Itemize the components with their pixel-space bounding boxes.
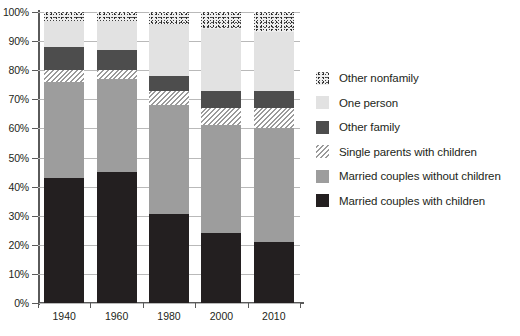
plot-area: 0%10%20%30%40%50%60%70%80%90%100% <box>38 12 300 303</box>
bar-segment <box>201 91 241 108</box>
bar-segment <box>44 12 84 21</box>
y-axis-tick-label: 20% <box>9 239 29 251</box>
legend-item: Other nonfamily <box>316 66 516 91</box>
bar-segment <box>97 70 137 79</box>
legend-label: Married couples with children <box>339 195 485 207</box>
y-tick-mark <box>32 187 38 188</box>
bar-1940 <box>44 12 84 303</box>
x-axis-tick-label: 2000 <box>210 310 233 322</box>
x-tick-mark <box>90 302 91 308</box>
y-axis-tick-label: 80% <box>9 64 29 76</box>
y-tick-mark <box>32 99 38 100</box>
bar-1980 <box>149 12 189 303</box>
x-tick-mark <box>300 302 301 308</box>
y-tick-mark <box>32 128 38 129</box>
x-tick-mark <box>38 302 39 308</box>
bar-segment <box>97 172 137 303</box>
y-tick-mark <box>32 274 38 275</box>
y-axis-tick-label: 60% <box>9 122 29 134</box>
x-tick-mark <box>143 302 144 308</box>
legend-label: Other nonfamily <box>339 72 419 84</box>
y-tick-mark <box>32 12 38 13</box>
y-axis-tick-label: 30% <box>9 210 29 222</box>
bar-segment <box>149 76 189 91</box>
x-axis-tick-label: 1960 <box>105 310 128 322</box>
bar-segment <box>254 32 294 90</box>
x-tick-mark <box>195 302 196 308</box>
bar-segment <box>201 12 241 29</box>
legend-item: Married couples with children <box>316 189 516 214</box>
y-tick-mark <box>32 216 38 217</box>
bar-segment <box>44 47 84 70</box>
bar-segment <box>254 91 294 108</box>
legend-item: Other family <box>316 115 516 140</box>
bar-segment <box>201 125 241 233</box>
legend-swatch-icon <box>316 170 329 183</box>
legend-swatch-icon <box>316 145 329 158</box>
x-tick-mark <box>248 302 249 308</box>
bar-segment <box>44 21 84 47</box>
stacked-bar-chart: 0%10%20%30%40%50%60%70%80%90%100% Other … <box>0 0 520 336</box>
x-axis-tick-label: 1980 <box>157 310 180 322</box>
legend-label: Single parents with children <box>339 146 477 158</box>
bar-segment <box>149 24 189 76</box>
y-axis-tick-label: 40% <box>9 181 29 193</box>
y-tick-mark <box>32 245 38 246</box>
bar-segment <box>201 108 241 125</box>
x-axis-tick-label: 2010 <box>262 310 285 322</box>
legend-label: Married couples without children <box>339 170 501 182</box>
y-axis-tick-label: 0% <box>14 297 29 309</box>
y-axis-tick-label: 90% <box>9 35 29 47</box>
bar-segment <box>254 12 294 32</box>
bar-1960 <box>97 12 137 303</box>
x-axis-tick-label: 1940 <box>53 310 76 322</box>
y-tick-mark <box>32 70 38 71</box>
bar-segment <box>201 29 241 90</box>
y-axis-tick-label: 70% <box>9 93 29 105</box>
bar-segment <box>254 128 294 241</box>
legend-swatch-icon <box>316 121 329 134</box>
bar-segment <box>149 12 189 24</box>
y-tick-mark <box>32 41 38 42</box>
y-axis-tick-label: 10% <box>9 268 29 280</box>
y-gridline <box>38 303 300 304</box>
legend-item: Married couples without children <box>316 164 516 189</box>
legend-item: Single parents with children <box>316 140 516 165</box>
bar-segment <box>149 105 189 214</box>
bar-segment <box>44 178 84 303</box>
chart-legend: Other nonfamilyOne personOther familySin… <box>316 66 516 213</box>
bar-segment <box>44 70 84 82</box>
bar-segment <box>97 21 137 50</box>
y-axis-tick-label: 100% <box>3 6 29 18</box>
legend-item: One person <box>316 91 516 116</box>
legend-swatch-icon <box>316 96 329 109</box>
legend-swatch-icon <box>316 72 329 85</box>
legend-swatch-icon <box>316 194 329 207</box>
bar-segment <box>149 91 189 106</box>
bar-segment <box>97 12 137 21</box>
bar-segment <box>149 214 189 303</box>
bar-segment <box>97 50 137 70</box>
bar-segment <box>44 82 84 178</box>
bar-2000 <box>201 12 241 303</box>
bar-segment <box>254 242 294 303</box>
bar-segment <box>254 108 294 128</box>
bar-segment <box>201 233 241 303</box>
bar-segment <box>97 79 137 172</box>
y-axis-tick-label: 50% <box>9 152 29 164</box>
legend-label: One person <box>339 97 398 109</box>
bar-2010 <box>254 12 294 303</box>
legend-label: Other family <box>339 121 400 133</box>
y-tick-mark <box>32 158 38 159</box>
